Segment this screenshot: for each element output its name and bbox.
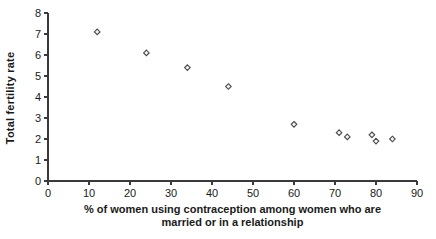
y-tick-label: 6 bbox=[35, 49, 41, 61]
x-tick-label: 0 bbox=[45, 187, 51, 199]
y-tick-label: 2 bbox=[35, 133, 41, 145]
y-tick-label: 7 bbox=[35, 28, 41, 40]
y-tick-label: 8 bbox=[35, 7, 41, 19]
y-tick-label: 3 bbox=[35, 112, 41, 124]
data-point-marker bbox=[390, 136, 396, 142]
x-axis-title: % of women using contraception among wom… bbox=[48, 203, 417, 229]
x-tick-label: 10 bbox=[83, 187, 95, 199]
x-tick-label: 70 bbox=[329, 187, 341, 199]
data-point-marker bbox=[373, 138, 379, 144]
x-axis-title-line-2: married or in a relationship bbox=[48, 216, 417, 229]
data-point-marker bbox=[185, 65, 191, 71]
data-point-marker bbox=[345, 134, 351, 140]
data-point-marker bbox=[369, 132, 375, 138]
y-tick-label: 4 bbox=[35, 91, 41, 103]
x-tick-label: 60 bbox=[288, 187, 300, 199]
data-point-marker bbox=[291, 122, 297, 128]
x-tick-label: 80 bbox=[370, 187, 382, 199]
x-tick-label: 90 bbox=[411, 187, 423, 199]
x-tick-label: 40 bbox=[206, 187, 218, 199]
x-axis-title-line-1: % of women using contraception among wom… bbox=[48, 203, 417, 216]
y-tick-label: 1 bbox=[35, 154, 41, 166]
data-point-marker bbox=[226, 84, 232, 90]
x-tick-label: 30 bbox=[165, 187, 177, 199]
fertility-contraception-scatter-chart: Total fertility rate 0102030405060708090… bbox=[0, 0, 436, 239]
data-point-marker bbox=[94, 29, 100, 35]
x-tick-label: 50 bbox=[247, 187, 259, 199]
data-point-marker bbox=[336, 130, 342, 136]
data-point-marker bbox=[144, 50, 150, 56]
y-tick-label: 0 bbox=[35, 175, 41, 187]
y-tick-label: 5 bbox=[35, 70, 41, 82]
x-tick-label: 20 bbox=[124, 187, 136, 199]
